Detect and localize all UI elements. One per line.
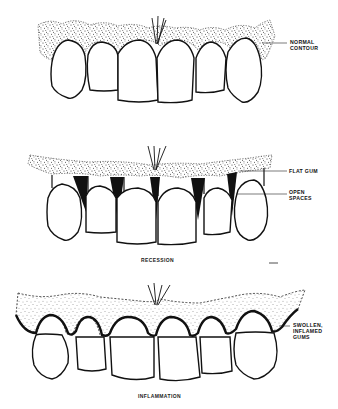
- callout-text: FLAT GUM: [289, 168, 318, 174]
- tooth: [87, 42, 118, 91]
- tooth: [234, 332, 277, 379]
- panel-recession: FLAT GUM OPEN SPACES RECESSION: [0, 140, 338, 270]
- caption-recession: RECESSION: [141, 257, 174, 263]
- tooth: [234, 180, 267, 240]
- tooth: [32, 334, 68, 379]
- gum-swollen: [16, 290, 305, 336]
- panel-normal-contour: NORMAL CONTOUR: [0, 0, 338, 130]
- tooth: [76, 337, 106, 371]
- tooth: [200, 337, 232, 374]
- callout-text: SPACES: [289, 195, 312, 201]
- tooth: [86, 186, 116, 233]
- caption-inflammation: INFLAMMATION: [138, 393, 181, 399]
- callout-open-spaces: OPEN SPACES: [289, 189, 312, 201]
- tooth: [47, 184, 82, 240]
- tooth: [51, 40, 86, 98]
- tooth-central-incisor: [157, 40, 194, 103]
- recession-teeth-illustration: [0, 140, 338, 270]
- callout-flat-gum: FLAT GUM: [289, 168, 318, 174]
- tooth-central-incisor: [158, 188, 196, 245]
- tooth: [226, 38, 262, 102]
- normal-teeth-illustration: [0, 0, 338, 130]
- tooth-central-incisor: [118, 40, 158, 102]
- inflammation-teeth-illustration: [0, 275, 338, 409]
- tooth-central-incisor: [117, 188, 156, 244]
- tooth: [196, 42, 226, 93]
- callout-normal-contour: NORMAL CONTOUR: [290, 39, 318, 51]
- panel-inflammation: SWOLLEN, INFLAMED GUMS INFLAMMATION: [0, 275, 338, 409]
- callout-swollen-inflamed-gums: SWOLLEN, INFLAMED GUMS: [293, 322, 323, 340]
- tooth-central-incisor: [110, 337, 154, 380]
- callout-text: CONTOUR: [290, 45, 318, 51]
- callout-text: GUMS: [293, 334, 323, 340]
- tooth: [204, 188, 232, 235]
- tooth-central-incisor: [158, 337, 200, 381]
